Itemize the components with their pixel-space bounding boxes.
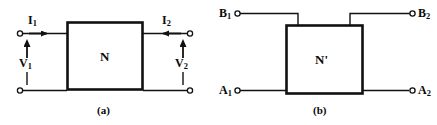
label-b1: B1 [219, 7, 231, 19]
label-b2-subscript: 2 [426, 12, 430, 21]
label-network-n: N [100, 50, 109, 63]
label-i2-symbol: I [162, 13, 167, 27]
terminal-a1 [235, 88, 240, 93]
label-a1-subscript: 1 [228, 89, 232, 98]
label-v1-symbol: V [19, 56, 28, 70]
terminal-port1-top [17, 31, 22, 36]
label-a1-symbol: A [219, 83, 228, 97]
label-a2-symbol: A [418, 83, 427, 97]
label-i1-symbol: I [28, 13, 33, 27]
terminal-b1 [235, 11, 240, 16]
terminal-port1-bottom [17, 88, 22, 93]
terminal-b2 [410, 11, 415, 16]
terminal-port2-bottom [187, 88, 192, 93]
label-i2: I2 [162, 14, 171, 26]
label-b2-symbol: B [418, 6, 426, 20]
label-b2: B2 [418, 7, 430, 19]
label-b1-subscript: 1 [227, 12, 231, 21]
label-a1: A1 [219, 84, 232, 96]
lead-b1 [240, 14, 298, 26]
label-a2-subscript: 2 [427, 89, 431, 98]
label-v1: V1 [19, 57, 32, 69]
label-b1-symbol: B [219, 6, 227, 20]
label-v2-subscript: 2 [184, 62, 188, 71]
figure-container: I1 I2 V1 V2 N (a) B1 B2 A1 A2 N' (b) [0, 0, 437, 125]
label-a2: A2 [418, 84, 431, 96]
label-network-nprime: N' [315, 53, 328, 66]
label-v2: V2 [175, 57, 188, 69]
label-v1-subscript: 1 [28, 62, 32, 71]
terminal-port2-top [187, 31, 192, 36]
label-i1: I1 [28, 14, 37, 26]
terminal-a2 [410, 88, 415, 93]
caption-b: (b) [313, 105, 326, 116]
label-i2-subscript: 2 [167, 19, 171, 28]
lead-b2 [350, 14, 410, 26]
label-v2-symbol: V [175, 56, 184, 70]
label-i1-subscript: 1 [33, 19, 37, 28]
caption-a: (a) [97, 105, 110, 116]
